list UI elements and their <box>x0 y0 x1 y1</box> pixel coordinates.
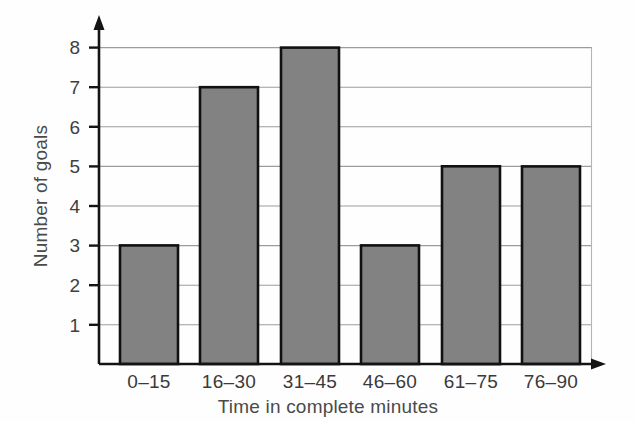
y-tick-label-5: 5 <box>69 156 80 177</box>
y-tick-label-7: 7 <box>69 77 80 98</box>
chart-canvas: 1 2 3 4 5 6 7 8 0–15 16–30 31–45 46–60 6… <box>0 0 635 422</box>
y-axis-title: Number of goals <box>30 125 51 267</box>
bar-chart-figure: 1 2 3 4 5 6 7 8 0–15 16–30 31–45 46–60 6… <box>0 0 635 422</box>
y-tick-label-3: 3 <box>69 235 80 256</box>
x-tick-label-31-45: 31–45 <box>283 371 337 392</box>
x-tick-label-46-60: 46–60 <box>363 371 417 392</box>
y-tick-label-1: 1 <box>69 315 80 336</box>
y-tick-label-4: 4 <box>69 196 80 217</box>
x-tick-label-61-75: 61–75 <box>444 371 498 392</box>
y-tick-label-8: 8 <box>69 37 80 58</box>
bar-46-60[interactable] <box>361 245 419 364</box>
x-tick-label-0-15: 0–15 <box>127 371 170 392</box>
bar-31-45[interactable] <box>281 48 339 364</box>
y-tick-labels: 1 2 3 4 5 6 7 8 <box>69 37 80 335</box>
bar-0-15[interactable] <box>120 245 178 364</box>
x-tick-label-76-90: 76–90 <box>524 371 578 392</box>
bar-76-90[interactable] <box>522 166 580 364</box>
x-tick-label-16-30: 16–30 <box>202 371 256 392</box>
bar-16-30[interactable] <box>200 87 258 364</box>
bar-61-75[interactable] <box>442 166 500 364</box>
x-tick-labels: 0–15 16–30 31–45 46–60 61–75 76–90 <box>127 371 578 392</box>
y-tick-label-6: 6 <box>69 117 80 138</box>
x-axis-arrow-icon <box>591 358 606 369</box>
x-axis-title: Time in complete minutes <box>218 396 439 417</box>
y-tick-label-2: 2 <box>69 275 80 296</box>
